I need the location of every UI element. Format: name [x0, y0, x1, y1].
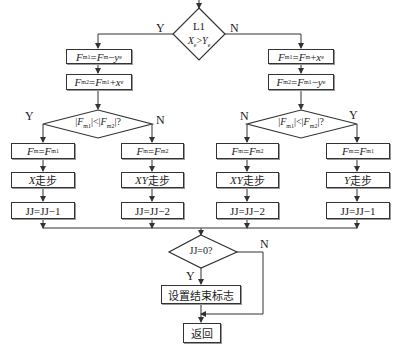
start-decision-condition: Xe>Ye: [177, 35, 221, 48]
right-no-step-box: XY走步: [216, 172, 279, 188]
start-decision-label: L1: [183, 20, 215, 32]
right-no-assign-box: Fm=Fm2: [216, 143, 279, 159]
left-no-counter-box: JJ=JJ−2: [121, 202, 184, 219]
right-decision-no-label: N: [240, 110, 249, 122]
end-yes-label: Y: [186, 270, 195, 282]
start-yes-label: Y: [156, 22, 165, 34]
right-step1-box: Fm1=Fm+xe: [268, 49, 334, 64]
left-yes-counter-box: JJ=JJ−1: [11, 202, 75, 219]
start-no-label: N: [230, 22, 239, 34]
left-decision-yes-label: Y: [25, 110, 34, 122]
right-decision-yes-label: Y: [349, 109, 358, 121]
left-step1-box: Fm1=Fm−ye: [66, 49, 132, 64]
right-yes-counter-box: JJ=JJ−1: [326, 202, 390, 219]
left-yes-assign-box: Fm=Fm1: [11, 143, 75, 159]
left-no-step-box: XY走步: [121, 172, 184, 188]
return-box: 返回: [183, 323, 221, 343]
end-decision-text: JJ=0?: [181, 245, 221, 256]
right-no-counter-box: JJ=JJ−2: [216, 202, 279, 219]
right-yes-assign-box: Fm=Fm1: [326, 143, 390, 159]
left-no-assign-box: Fm=Fm2: [121, 143, 184, 159]
left-step2-box: Fm2=Fm1+xe: [66, 74, 132, 90]
left-yes-step-box: X走步: [11, 172, 75, 188]
right-yes-step-box: Y走步: [326, 172, 390, 188]
end-no-label: N: [260, 238, 269, 250]
left-decision-text: |Fm1|<|Fm2|?: [68, 116, 128, 129]
right-decision-text: |Fm1|<|Fm2|?: [271, 116, 331, 129]
left-decision-no-label: N: [156, 114, 165, 126]
set-end-flag-box: 设置结束标志: [161, 285, 241, 304]
right-step2-box: Fm2=Fm1−ye: [268, 74, 334, 90]
